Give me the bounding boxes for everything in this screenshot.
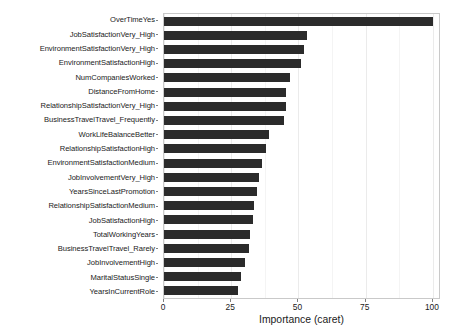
bar-row bbox=[164, 199, 439, 213]
y-axis-tick-label: OverTimeYes bbox=[0, 13, 158, 27]
bar bbox=[164, 73, 290, 82]
bar bbox=[164, 159, 262, 168]
bar-row bbox=[164, 42, 439, 56]
y-axis-tick-label-text: EnvironmentSatisfactionMedium bbox=[48, 159, 155, 167]
y-axis-tick-mark bbox=[156, 177, 159, 178]
y-axis-tick-label-text: JobSatisfactionHigh bbox=[89, 217, 155, 225]
y-axis-tick-label-text: EnvironmentSatisfactionVery_High bbox=[40, 45, 155, 53]
bar bbox=[164, 31, 307, 40]
bar bbox=[164, 17, 433, 26]
bar-row bbox=[164, 142, 439, 156]
bar bbox=[164, 102, 286, 111]
bar bbox=[164, 45, 304, 54]
y-axis-tick-mark bbox=[156, 291, 159, 292]
y-axis-tick-mark bbox=[156, 234, 159, 235]
y-axis-tick-label: JobSatisfactionVery_High bbox=[0, 27, 158, 41]
y-axis-tick-label-text: NumCompaniesWorked bbox=[75, 74, 155, 82]
bar-row bbox=[164, 57, 439, 71]
y-axis-tick-mark bbox=[156, 248, 159, 249]
y-axis-tick-label-text: RelationshipSatisfactionVery_High bbox=[41, 102, 155, 110]
y-axis-tick-mark bbox=[156, 20, 159, 21]
bar-row bbox=[164, 113, 439, 127]
bar-row bbox=[164, 128, 439, 142]
y-axis-tick-label: WorkLifeBalanceBetter bbox=[0, 127, 158, 141]
y-axis-tick-label: TotalWorkingYears bbox=[0, 227, 158, 241]
y-axis-tick-label: BusinessTravelTravel_Frequently bbox=[0, 113, 158, 127]
y-axis-tick-mark bbox=[156, 206, 159, 207]
y-axis-tick-mark bbox=[156, 263, 159, 264]
bar bbox=[164, 173, 259, 182]
y-axis-tick-label: JobInvolvementHigh bbox=[0, 256, 158, 270]
y-axis-tick-mark bbox=[156, 163, 159, 164]
x-axis-title: Importance (caret) bbox=[163, 314, 440, 325]
x-axis-tick-label: 50 bbox=[293, 302, 302, 312]
plot-panel bbox=[163, 13, 440, 299]
y-axis-tick-label-text: TotalWorkingYears bbox=[93, 231, 155, 239]
x-axis-tick-label: 100 bbox=[425, 302, 439, 312]
y-axis-tick-label: EnvironmentSatisfactionVery_High bbox=[0, 42, 158, 56]
y-axis-tick-label: RelationshipSatisfactionMedium bbox=[0, 199, 158, 213]
bar-row bbox=[164, 227, 439, 241]
bar-row bbox=[164, 213, 439, 227]
importance-bar-chart: OverTimeYesJobSatisfactionVery_HighEnvir… bbox=[0, 0, 457, 335]
y-axis-tick-label-text: JobSatisfactionVery_High bbox=[70, 31, 155, 39]
y-axis-tick-label-text: OverTimeYes bbox=[110, 16, 155, 24]
bar bbox=[164, 244, 249, 253]
y-axis-tick-label-text: YearsSinceLastPromotion bbox=[69, 188, 155, 196]
bar-row bbox=[164, 184, 439, 198]
y-axis-tick-mark bbox=[156, 34, 159, 35]
bar bbox=[164, 187, 257, 196]
y-axis-tick-label-text: RelationshipSatisfactionMedium bbox=[48, 202, 155, 210]
y-axis-tick-mark bbox=[156, 105, 159, 106]
y-axis-tick-label-text: WorkLifeBalanceBetter bbox=[79, 131, 155, 139]
x-axis-tick-label: 75 bbox=[360, 302, 369, 312]
y-axis-tick-label-text: RelationshipSatisfactionHigh bbox=[60, 145, 155, 153]
bar-row bbox=[164, 85, 439, 99]
bar-row bbox=[164, 14, 439, 28]
bar bbox=[164, 201, 254, 210]
y-axis-tick-mark bbox=[156, 134, 159, 135]
bar-row bbox=[164, 99, 439, 113]
y-axis-tick-mark bbox=[156, 148, 159, 149]
y-axis-tick-label-text: EnvironmentSatisfactionHigh bbox=[59, 59, 155, 67]
bar-row bbox=[164, 156, 439, 170]
bar bbox=[164, 88, 286, 97]
bar bbox=[164, 215, 253, 224]
x-axis-tick-label: 0 bbox=[161, 302, 166, 312]
y-axis-tick-label: YearsSinceLastPromotion bbox=[0, 185, 158, 199]
y-axis-tick-label: EnvironmentSatisfactionMedium bbox=[0, 156, 158, 170]
bar-row bbox=[164, 241, 439, 255]
y-axis-tick-label: EnvironmentSatisfactionHigh bbox=[0, 56, 158, 70]
y-axis-tick-mark bbox=[156, 77, 159, 78]
y-axis-tick-label-text: JobInvolvementHigh bbox=[87, 259, 155, 267]
y-axis-tick-label: YearsInCurrentRole bbox=[0, 285, 158, 299]
bar-row bbox=[164, 284, 439, 298]
y-axis-tick-label: JobSatisfactionHigh bbox=[0, 213, 158, 227]
bar-row bbox=[164, 71, 439, 85]
y-axis-tick-label: DistanceFromHome bbox=[0, 84, 158, 98]
bar-row bbox=[164, 170, 439, 184]
bar bbox=[164, 286, 238, 295]
y-axis-tick-mark bbox=[156, 191, 159, 192]
y-axis-tick-label-text: BusinessTravelTravel_Frequently bbox=[44, 116, 155, 124]
y-axis-tick-label: JobInvolvementVery_High bbox=[0, 170, 158, 184]
y-axis-tick-mark bbox=[156, 48, 159, 49]
bar-row bbox=[164, 255, 439, 269]
bar-row bbox=[164, 270, 439, 284]
y-axis-tick-label: NumCompaniesWorked bbox=[0, 70, 158, 84]
bar bbox=[164, 144, 266, 153]
y-axis-tick-label-text: BusinessTravelTravel_Rarely bbox=[58, 245, 155, 253]
bar bbox=[164, 130, 269, 139]
y-axis-tick-mark bbox=[156, 120, 159, 121]
y-axis-tick-label: RelationshipSatisfactionVery_High bbox=[0, 99, 158, 113]
bar-series bbox=[164, 14, 439, 298]
bar bbox=[164, 258, 245, 267]
bar bbox=[164, 116, 284, 125]
y-axis-category-labels: OverTimeYesJobSatisfactionVery_HighEnvir… bbox=[0, 13, 158, 299]
y-axis-tick-mark bbox=[156, 91, 159, 92]
y-axis-tick-label-text: YearsInCurrentRole bbox=[89, 288, 155, 296]
bar bbox=[164, 59, 301, 68]
y-axis-tick-label-text: DistanceFromHome bbox=[88, 88, 155, 96]
y-axis-tick-mark bbox=[156, 63, 159, 64]
y-axis-tick-label: RelationshipSatisfactionHigh bbox=[0, 142, 158, 156]
